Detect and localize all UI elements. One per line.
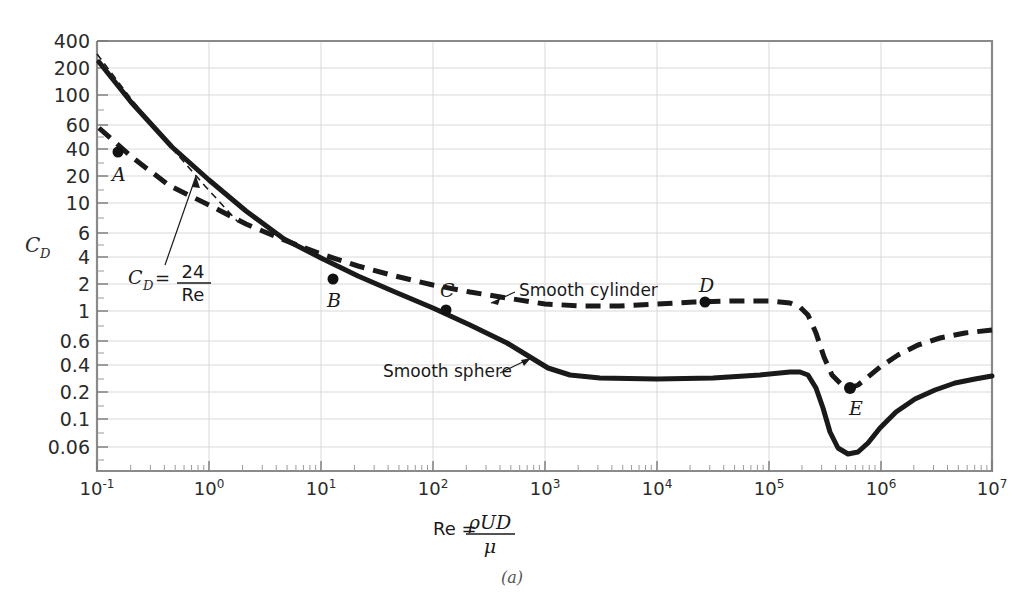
ytick-label: 400 — [54, 30, 90, 52]
stokes-numerator: 24 — [182, 261, 205, 282]
ytick-label: 200 — [54, 57, 90, 79]
smooth-sphere-annotation: Smooth sphere — [383, 358, 531, 381]
stokes-law-reference-line — [97, 54, 238, 222]
stokes-denominator: Re — [182, 284, 205, 305]
x-axis-title-numerator: ρUD — [468, 511, 511, 533]
ytick-label: 0.4 — [60, 354, 90, 376]
ytick-label: 2 — [78, 273, 90, 295]
ytick-label: 100 — [54, 84, 90, 106]
xtick-label: 106 — [866, 477, 897, 499]
stokes-label-equals: = — [155, 267, 170, 288]
xtick-label: 104 — [642, 477, 673, 499]
data-point-label-a: A — [110, 163, 126, 185]
data-point-marker-e — [844, 382, 856, 394]
ytick-label: 0.1 — [60, 408, 90, 430]
ytick-label: 0.06 — [48, 436, 90, 458]
ytick-label: 6 — [78, 222, 90, 244]
ytick-label: 40 — [66, 138, 90, 160]
ytick-label: 0.2 — [60, 381, 90, 403]
smooth-cylinder-label: Smooth cylinder — [519, 280, 658, 300]
data-point-label-d: D — [698, 274, 714, 296]
stokes-label-cd: C — [128, 266, 143, 288]
y-axis-title-sub: D — [39, 246, 51, 261]
data-point-marker-d — [700, 297, 711, 308]
x-axis-tick-labels: 10-1 100 101 102 103 104 105 106 107 — [80, 477, 1008, 499]
ytick-label: 20 — [66, 165, 90, 187]
ytick-label: 4 — [78, 246, 90, 268]
figure-caption: (a) — [501, 568, 523, 587]
stokes-law-annotation: C D = 24 Re — [128, 176, 211, 305]
data-point-label-e: E — [848, 397, 863, 419]
ytick-label: 1 — [78, 300, 90, 322]
xtick-label: 105 — [754, 477, 785, 499]
ytick-label: 0.6 — [60, 330, 90, 352]
y-axis-ticks — [97, 41, 108, 460]
data-point-marker-b — [328, 274, 339, 285]
xtick-label: 103 — [530, 477, 561, 499]
x-axis-title: Re = ρUD μ — [433, 511, 515, 557]
data-point-label-c: C — [440, 279, 455, 301]
chart-canvas: 400 200 100 60 40 20 10 6 4 2 1 0.6 0.4 … — [0, 0, 1030, 601]
y-axis-title-main: C — [25, 233, 40, 257]
ytick-label: 60 — [66, 114, 90, 136]
data-point-marker-c — [441, 305, 452, 316]
stokes-label-cd-sub: D — [142, 278, 154, 293]
drag-coefficient-figure: 400 200 100 60 40 20 10 6 4 2 1 0.6 0.4 … — [0, 0, 1030, 601]
xtick-label: 10-1 — [80, 477, 115, 499]
xtick-label: 100 — [194, 477, 225, 499]
xtick-label: 101 — [306, 477, 337, 499]
ytick-label: 10 — [66, 192, 90, 214]
x-axis-ticks — [97, 461, 992, 471]
data-point-label-b: B — [326, 289, 341, 311]
xtick-label: 107 — [977, 477, 1008, 499]
y-axis-title: C D — [25, 233, 51, 261]
data-point-marker-a — [113, 147, 124, 158]
xtick-label: 102 — [418, 477, 449, 499]
smooth-sphere-label: Smooth sphere — [383, 361, 512, 381]
x-axis-title-denominator: μ — [484, 535, 496, 557]
y-axis-tick-labels: 400 200 100 60 40 20 10 6 4 2 1 0.6 0.4 … — [48, 30, 90, 458]
